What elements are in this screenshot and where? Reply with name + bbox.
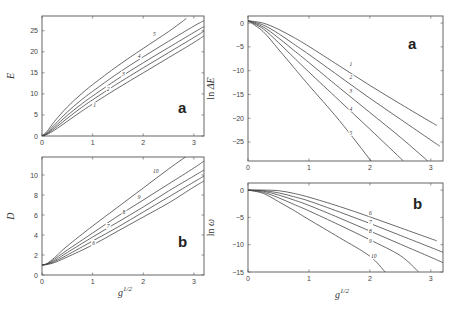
- panel-label: b: [413, 195, 422, 212]
- y-tick-label: −5: [236, 43, 244, 50]
- x-tick-label: 2: [368, 275, 372, 282]
- x-tick-label: 3: [192, 278, 196, 285]
- y-tick-label: 15: [30, 69, 38, 76]
- curve-label-6: 6: [92, 240, 95, 246]
- curve-label-6: 6: [369, 210, 372, 216]
- y-tick-label: 2: [34, 252, 38, 259]
- y-tick-label: 20: [30, 48, 38, 55]
- curve-label-3: 3: [121, 71, 125, 77]
- curve-label-2: 2: [350, 74, 353, 80]
- curve-label-7: 7: [107, 223, 110, 229]
- curve-label-2: 2: [107, 86, 110, 92]
- y-tick-label: −20: [232, 115, 244, 122]
- figure: 0123051015202512345aE01230246810678910bD…: [0, 0, 459, 319]
- curve-label-7: 7: [369, 219, 372, 225]
- x-tick-label: 0: [246, 164, 250, 171]
- curve-label-1: 1: [93, 102, 96, 108]
- series-line-1: [42, 36, 204, 136]
- y-tick-label: 6: [34, 212, 38, 219]
- curve-label-4: 4: [138, 53, 141, 59]
- series-line-6: [248, 190, 437, 241]
- panel-label: a: [178, 99, 187, 116]
- x-tick-label: 3: [192, 139, 196, 146]
- series-line-10: [248, 190, 385, 272]
- series-line-9: [248, 190, 419, 272]
- x-axis-label: g1/2: [335, 287, 349, 300]
- y-tick-label: 10: [30, 172, 38, 179]
- x-tick-label: 2: [141, 139, 145, 146]
- x-tick-label: 1: [307, 164, 311, 171]
- panel-bottom-right: 01230−5−10−15678910bln ωg1/2: [205, 183, 443, 300]
- curve-label-5: 5: [153, 31, 156, 37]
- y-tick-label: −15: [232, 91, 244, 98]
- curve-label-10: 10: [153, 168, 159, 174]
- series-line-10: [42, 151, 194, 265]
- y-tick-label: −15: [232, 269, 244, 276]
- y-tick-label: 5: [34, 111, 38, 118]
- panel-label: b: [178, 233, 187, 250]
- x-tick-label: 1: [91, 139, 95, 146]
- curve-label-5: 5: [350, 130, 353, 136]
- y-tick-label: 0: [34, 133, 38, 140]
- panel-label: a: [408, 35, 417, 52]
- y-tick-label: 4: [34, 232, 38, 239]
- series-line-3: [248, 21, 428, 161]
- y-tick-label: 0: [240, 20, 244, 27]
- y-tick-label: −25: [232, 138, 244, 145]
- curve-label-1: 1: [350, 61, 353, 67]
- y-tick-label: −10: [232, 67, 244, 74]
- curve-label-8: 8: [369, 228, 372, 234]
- y-tick-label: 10: [30, 90, 38, 97]
- y-axis-label: ln ΔE: [205, 77, 216, 99]
- curve-label-8: 8: [123, 209, 126, 215]
- y-axis-label: ln ω: [205, 219, 216, 236]
- x-tick-label: 1: [91, 278, 95, 285]
- y-axis-label: D: [5, 212, 16, 221]
- x-tick-label: 0: [40, 139, 44, 146]
- x-tick-label: 3: [429, 275, 433, 282]
- curve-label-10: 10: [371, 253, 377, 259]
- panel-top-left: 0123051015202512345aE: [5, 16, 204, 146]
- curve-label-9: 9: [369, 238, 372, 244]
- y-tick-label: 25: [30, 27, 38, 34]
- y-tick-label: −10: [232, 241, 244, 248]
- y-tick-label: 8: [34, 192, 38, 199]
- series-line-7: [42, 176, 204, 265]
- y-tick-label: −5: [236, 214, 244, 221]
- x-tick-label: 2: [368, 164, 372, 171]
- y-axis-label: E: [5, 73, 16, 80]
- panel-top-right: 01230−5−10−15−20−2512345aln ΔE: [205, 16, 443, 171]
- curve-label-4: 4: [350, 106, 353, 112]
- y-tick-label: 0: [34, 272, 38, 279]
- curve-label-3: 3: [349, 88, 353, 94]
- panel-bottom-left: 01230246810678910bDg1/2: [5, 151, 204, 298]
- x-tick-label: 3: [429, 164, 433, 171]
- series-line-4: [248, 21, 403, 161]
- curve-label-9: 9: [138, 194, 141, 200]
- series-line-6: [42, 181, 204, 265]
- x-tick-label: 0: [40, 278, 44, 285]
- series-line-2: [42, 31, 204, 136]
- x-tick-label: 0: [246, 275, 250, 282]
- x-axis-label: g1/2: [118, 285, 132, 298]
- y-tick-label: 0: [240, 187, 244, 194]
- x-tick-label: 1: [307, 275, 311, 282]
- x-tick-label: 2: [141, 278, 145, 285]
